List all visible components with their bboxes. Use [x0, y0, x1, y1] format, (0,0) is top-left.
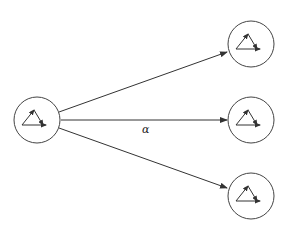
diagram-canvas [0, 0, 292, 242]
node-source [14, 97, 60, 143]
node-target-middle [228, 97, 274, 143]
edge-label-alpha: α [142, 123, 149, 136]
node-target-bottom [228, 173, 274, 219]
edge-to-bottom [59, 128, 227, 188]
node-target-top [228, 21, 274, 67]
edge-to-top [59, 52, 227, 112]
